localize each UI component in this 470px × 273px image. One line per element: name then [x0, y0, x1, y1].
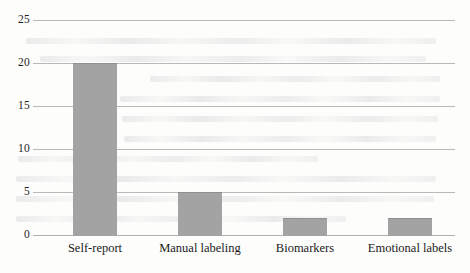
x-axis-label-manual-labeling: Manual labeling: [141, 241, 259, 255]
y-axis-tick-label-0: 0: [4, 229, 30, 241]
gridline-25: [33, 20, 455, 21]
y-axis-tick-label-20: 20: [4, 57, 30, 69]
bar-biomarkers[interactable]: [283, 218, 327, 236]
y-axis-tick-label-10: 10: [4, 143, 30, 155]
y-axis-tick-label-25: 25: [4, 14, 30, 26]
y-axis-tick-label-5: 5: [4, 186, 30, 198]
bar-self-report[interactable]: [73, 63, 117, 236]
bar-manual-labeling[interactable]: [178, 192, 222, 236]
x-axis-label-biomarkers: Biomarkers: [253, 241, 357, 255]
bar-chart: 25 20 15 10 5 0 Self-report Manual label…: [0, 0, 470, 273]
x-axis-label-emotional-labels: Emotional labels: [350, 241, 470, 255]
bar-emotional-labels[interactable]: [388, 218, 432, 236]
y-axis-tick-label-15: 15: [4, 100, 30, 112]
x-axis-label-self-report: Self-report: [43, 241, 147, 255]
